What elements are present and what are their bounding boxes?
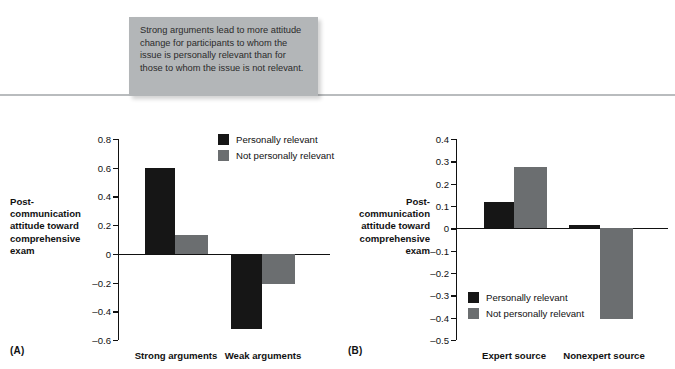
y-tick-label-a-3: 0.2 [98, 220, 111, 231]
y-tick-label-b-0: 0.4 [436, 134, 449, 145]
y-tick-label-b-3: 0.1 [436, 201, 449, 212]
legend-item-b-1: Not personally relevant [468, 306, 584, 320]
legend-item-b-0: Personally relevant [468, 290, 584, 304]
category-label-a-1: Weak arguments [225, 350, 302, 361]
category-label-b-1: Nonexpert source [563, 350, 645, 361]
bar-nonexpert-personally-relevant [569, 225, 600, 228]
y-tick-label-a-7: –0.6 [92, 335, 111, 346]
y-tick-label-a-2: 0.4 [98, 191, 111, 202]
y-axis-line-a [118, 139, 119, 340]
y-tick-label-a-0: 0.8 [98, 134, 111, 145]
legend-a: Personally relevant Not personally relev… [218, 132, 334, 164]
plot-area-a: 0.8 0.6 0.4 0.2 0 –0.2 –0.4 –0.6 Strong … [118, 139, 330, 340]
y-axis-title-b: Post-communication attitude toward compr… [338, 196, 430, 257]
bar-expert-personally-relevant [484, 202, 514, 228]
legend-label-a-0: Personally relevant [236, 134, 318, 145]
category-label-b-0: Expert source [482, 350, 546, 361]
legend-swatch-gray-icon [468, 308, 479, 319]
y-tick-label-b-2: 0.2 [436, 178, 449, 189]
bar-nonexpert-not-personally-relevant [600, 228, 633, 319]
bar-weak-personally-relevant [231, 254, 262, 329]
y-tick-label-a-1: 0.6 [98, 162, 111, 173]
y-tick-label-a-4: 0 [106, 248, 111, 259]
legend-b: Personally relevant Not personally relev… [468, 290, 584, 322]
legend-label-b-0: Personally relevant [486, 292, 568, 303]
y-tick-label-a-5: –0.2 [92, 277, 111, 288]
legend-label-b-1: Not personally relevant [486, 308, 584, 319]
legend-item-a-1: Not personally relevant [218, 148, 334, 162]
legend-swatch-black-icon [218, 134, 229, 145]
chart-panel-a: Strong arguments lead to more attitude c… [0, 0, 337, 369]
y-tick-label-b-9: –0.5 [430, 335, 449, 346]
y-tick-label-b-4: 0 [444, 223, 449, 234]
bar-strong-personally-relevant [145, 168, 175, 254]
bar-weak-not-personally-relevant [262, 254, 295, 284]
y-tick-label-b-5: –0.1 [430, 245, 449, 256]
y-tick-label-b-1: 0.3 [436, 156, 449, 167]
y-axis-title-a: Post-communication attitude toward compr… [10, 196, 102, 257]
callout-annotation-a: Strong arguments lead to more attitude c… [129, 17, 318, 96]
y-tick-label-b-8: –0.4 [430, 312, 449, 323]
category-label-a-0: Strong arguments [135, 350, 218, 361]
y-axis-line-b [456, 139, 457, 340]
y-tick-label-a-6: –0.4 [92, 306, 111, 317]
chart-panel-b: The expertise of the source of the commu… [338, 0, 675, 369]
legend-item-a-0: Personally relevant [218, 132, 334, 146]
y-tick-label-b-6: –0.2 [430, 268, 449, 279]
zero-baseline-b [456, 228, 668, 229]
bar-expert-not-personally-relevant [514, 167, 547, 228]
panel-letter-a: (A) [10, 345, 24, 356]
zero-baseline-a [118, 254, 330, 255]
y-tick-label-b-7: –0.3 [430, 290, 449, 301]
legend-swatch-gray-icon [218, 150, 229, 161]
bar-strong-not-personally-relevant [175, 235, 208, 254]
panel-letter-b: (B) [348, 345, 362, 356]
legend-label-a-1: Not personally relevant [236, 150, 334, 161]
legend-swatch-black-icon [468, 292, 479, 303]
